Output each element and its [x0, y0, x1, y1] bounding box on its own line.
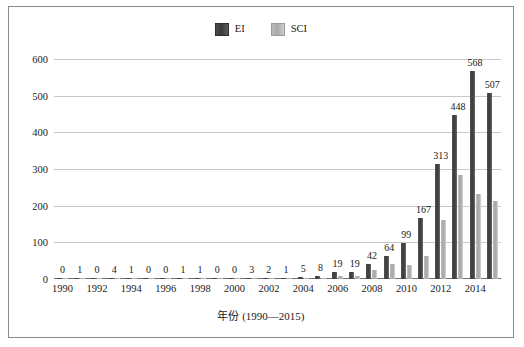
bar-sci — [166, 278, 171, 279]
bar-ei — [349, 272, 354, 279]
bar-sci — [372, 270, 377, 279]
bar-sci — [201, 278, 206, 279]
bar-sci — [115, 278, 120, 279]
x-axis-title: 年份 (1990—2015) — [9, 307, 513, 323]
bar-group: 4 — [106, 59, 123, 279]
bar-sci — [183, 278, 188, 279]
bar-sci — [269, 278, 274, 279]
bar-group: 42 — [363, 59, 380, 279]
x-tick-label: 2006 — [327, 283, 348, 294]
bar-ei — [332, 272, 337, 279]
bar-sci — [80, 278, 85, 279]
bar-value-label: 4 — [112, 265, 117, 275]
bar-sci — [355, 276, 360, 279]
bar-ei — [212, 278, 217, 279]
bar-group: 5 — [295, 59, 312, 279]
bar-sci — [304, 278, 309, 279]
bar-ei — [263, 278, 268, 279]
bar-sci — [476, 194, 481, 279]
bar-groups: 0104100110032158191942649916731344856850… — [54, 59, 501, 279]
y-tick-label: 600 — [32, 54, 48, 65]
bar-group: 313 — [432, 59, 449, 279]
bar-group: 1 — [123, 59, 140, 279]
bar-ei — [57, 278, 62, 279]
bar-group: 64 — [381, 59, 398, 279]
bar-group: 19 — [329, 59, 346, 279]
bar-ei — [160, 278, 165, 279]
bar-group: 167 — [415, 59, 432, 279]
bar-group: 1 — [192, 59, 209, 279]
bar-ei — [487, 93, 492, 279]
bar-sci — [97, 278, 102, 279]
bar-group: 1 — [71, 59, 88, 279]
y-tick-label: 300 — [32, 164, 48, 175]
x-axis-ticks: 1990199219941996199820002002200420062008… — [54, 283, 501, 299]
bar-group: 0 — [226, 59, 243, 279]
bar-group: 507 — [484, 59, 501, 279]
bar-ei — [109, 278, 114, 279]
plot-wrapper: 0100200300400500600 01041001100321581919… — [9, 7, 513, 337]
bar-value-label: 1 — [284, 265, 289, 275]
bar-ei — [281, 278, 286, 279]
bar-value-label: 1 — [129, 265, 134, 275]
bar-value-label: 1 — [77, 265, 82, 275]
bar-ei — [315, 276, 320, 279]
x-tick-label: 1996 — [155, 283, 176, 294]
bar-value-label: 0 — [94, 265, 99, 275]
bar-value-label: 1 — [198, 265, 203, 275]
bar-value-label: 42 — [367, 251, 377, 261]
bar-value-label: 8 — [318, 263, 323, 273]
bar-sci — [493, 201, 498, 279]
bar-ei — [418, 218, 423, 279]
bar-value-label: 568 — [468, 58, 483, 68]
bar-sci — [424, 256, 429, 279]
x-tick-label: 2002 — [258, 283, 279, 294]
bar-value-label: 0 — [215, 265, 220, 275]
bar-sci — [390, 264, 395, 279]
bar-ei — [366, 264, 371, 279]
bar-group: 1 — [277, 59, 294, 279]
bar-value-label: 99 — [401, 230, 411, 240]
plot-area: 0100200300400500600 01041001100321581919… — [54, 59, 501, 279]
bar-sci — [287, 278, 292, 279]
x-tick-label: 2010 — [396, 283, 417, 294]
bar-sci — [441, 220, 446, 279]
bar-value-label: 0 — [60, 265, 65, 275]
bar-ei — [452, 115, 457, 279]
bar-value-label: 0 — [163, 265, 168, 275]
bar-ei — [74, 278, 79, 279]
bar-group: 1 — [174, 59, 191, 279]
bar-ei — [246, 278, 251, 279]
y-tick-label: 100 — [32, 237, 48, 248]
bar-group: 0 — [88, 59, 105, 279]
x-tick-label: 1990 — [52, 283, 73, 294]
bar-value-label: 1 — [180, 265, 185, 275]
y-tick-label: 400 — [32, 127, 48, 138]
bar-sci — [63, 278, 68, 279]
x-tick-label: 1998 — [190, 283, 211, 294]
bar-value-label: 0 — [146, 265, 151, 275]
bar-value-label: 19 — [333, 259, 343, 269]
y-tick-label: 500 — [32, 90, 48, 101]
bar-sci — [338, 276, 343, 279]
bar-value-label: 64 — [384, 243, 394, 253]
bar-group: 0 — [140, 59, 157, 279]
x-tick-label: 2012 — [430, 283, 451, 294]
bar-ei — [91, 278, 96, 279]
bar-value-label: 507 — [485, 80, 500, 90]
bar-value-label: 3 — [249, 265, 254, 275]
bar-sci — [132, 278, 137, 279]
bar-value-label: 19 — [350, 259, 360, 269]
x-tick-label: 1994 — [121, 283, 142, 294]
bar-group: 2 — [260, 59, 277, 279]
bar-sci — [458, 175, 463, 279]
bar-group: 448 — [449, 59, 466, 279]
bar-group: 8 — [312, 59, 329, 279]
x-tick-label: 2014 — [465, 283, 486, 294]
bar-group: 3 — [243, 59, 260, 279]
bar-value-label: 448 — [450, 102, 465, 112]
bar-ei — [229, 278, 234, 279]
bar-ei — [195, 278, 200, 279]
bar-ei — [470, 71, 475, 279]
bar-sci — [252, 278, 257, 279]
